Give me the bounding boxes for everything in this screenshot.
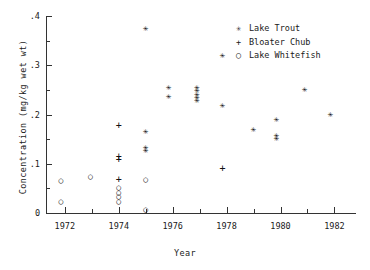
- y-tick-major: [46, 213, 52, 214]
- data-point-plus: +: [218, 165, 227, 174]
- x-tick-major: [65, 207, 66, 213]
- y-tick-label: .2: [14, 110, 40, 120]
- data-point-circle: ○: [141, 206, 150, 215]
- scatter-chart: Concentration (mg/kg wet wt) Year 0.1.2.…: [0, 0, 370, 270]
- x-tick-label: 1974: [102, 221, 136, 231]
- asterisk-marker-icon: ✳: [236, 22, 249, 36]
- y-tick-major: [46, 115, 52, 116]
- data-point-circle: ○: [56, 198, 65, 207]
- x-tick-label: 1978: [210, 221, 244, 231]
- legend-label: Lake Whitefish: [249, 49, 321, 63]
- x-tick-label: 1976: [156, 221, 190, 231]
- x-tick-minor: [254, 209, 255, 213]
- x-tick-major: [227, 207, 228, 213]
- data-point-circle: ○: [86, 173, 95, 182]
- x-tick-label: 1982: [317, 221, 351, 231]
- data-point-asterisk: ✳: [141, 146, 150, 155]
- y-tick-minor: [46, 188, 50, 189]
- data-point-circle: ○: [56, 177, 65, 186]
- x-tick-label: 1980: [264, 221, 298, 231]
- y-tick-label: .3: [14, 60, 40, 70]
- data-point-circle: ○: [141, 176, 150, 185]
- y-tick-minor: [46, 41, 50, 42]
- legend-label: Lake Trout: [249, 22, 300, 36]
- circle-marker-icon: ○: [236, 49, 249, 63]
- y-tick-label: .1: [14, 159, 40, 169]
- x-tick-label: 1972: [48, 221, 82, 231]
- x-axis-label: Year: [0, 248, 370, 258]
- legend-label: Bloater Chub: [249, 36, 310, 50]
- legend-item-lake-trout: ✳ Lake Trout: [236, 22, 321, 36]
- data-point-asterisk: ✳: [272, 115, 281, 124]
- y-tick-major: [46, 16, 52, 17]
- data-point-asterisk: ✳: [326, 110, 335, 119]
- y-tick-minor: [46, 139, 50, 140]
- data-point-asterisk: ✳: [249, 125, 258, 134]
- x-tick-minor: [307, 209, 308, 213]
- x-tick-minor: [200, 209, 201, 213]
- y-tick-label: .4: [14, 11, 40, 21]
- plus-marker-icon: +: [236, 36, 249, 50]
- data-point-plus: +: [114, 156, 123, 165]
- data-point-asterisk: ✳: [300, 85, 309, 94]
- data-point-asterisk: ✳: [218, 51, 227, 60]
- y-tick-label: 0: [14, 208, 40, 218]
- data-point-asterisk: ✳: [164, 92, 173, 101]
- legend-item-bloater-chub: + Bloater Chub: [236, 36, 321, 50]
- x-axis-line: [46, 213, 356, 214]
- data-point-asterisk: ✳: [141, 24, 150, 33]
- data-point-plus: +: [114, 122, 123, 131]
- data-point-asterisk: ✳: [218, 101, 227, 110]
- legend-item-lake-whitefish: ○ Lake Whitefish: [236, 49, 321, 63]
- x-tick-minor: [92, 209, 93, 213]
- chart-legend: ✳ Lake Trout + Bloater Chub ○ Lake White…: [236, 22, 321, 63]
- data-point-asterisk: ✳: [272, 134, 281, 143]
- data-point-asterisk: ✳: [141, 127, 150, 136]
- x-tick-major: [334, 207, 335, 213]
- y-tick-minor: [46, 90, 50, 91]
- x-tick-major: [281, 207, 282, 213]
- data-point-asterisk: ✳: [192, 96, 201, 105]
- data-point-circle: ○: [114, 198, 123, 207]
- x-tick-major: [119, 207, 120, 213]
- x-tick-major: [173, 207, 174, 213]
- y-tick-major: [46, 164, 52, 165]
- y-tick-major: [46, 65, 52, 66]
